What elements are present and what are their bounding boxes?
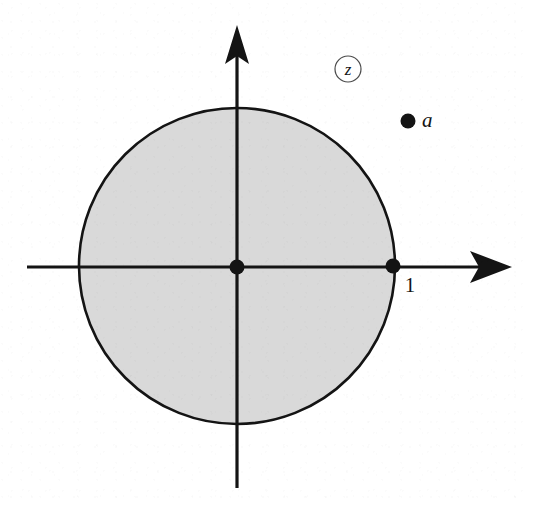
origin-point-dot [230,260,245,275]
plane-label-text: z [344,60,352,79]
complex-plane-diagram: z 1 a [0,0,533,508]
unit-point-label: 1 [405,273,416,297]
figure-canvas: z 1 a [0,0,533,508]
plane-label-badge: z [335,56,361,82]
unit-point-dot [386,259,401,274]
origin-point [230,260,245,275]
point-a-dot [401,114,416,129]
point-a: a [401,108,433,132]
point-a-label: a [422,108,433,132]
